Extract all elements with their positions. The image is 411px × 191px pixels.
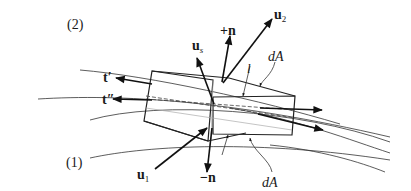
label-thickness: l <box>247 61 251 76</box>
region-label-2: (2) <box>67 17 84 33</box>
label-plus-n: +n <box>220 23 236 38</box>
label-u-1: u1 <box>137 167 149 184</box>
vector-u-s <box>197 58 214 104</box>
label-dA-top: dA <box>268 49 284 64</box>
vector-t-right-1 <box>260 108 322 110</box>
label-t-prime: t′ <box>103 70 112 85</box>
interface-surface-lines <box>38 70 390 172</box>
label-u-2: u2 <box>274 7 286 24</box>
region-label-1: (1) <box>66 155 83 171</box>
vector-minus-n <box>207 128 212 172</box>
label-t-double-prime: t″ <box>102 92 114 107</box>
interface-control-volume-diagram: (2) (1) us +n u2 t′ t″ u1 −n dA dA l <box>0 0 411 191</box>
label-dA-bottom: dA <box>262 175 278 190</box>
label-u-s: us <box>192 38 204 55</box>
vector-t-double-prime <box>113 99 152 100</box>
label-minus-n: −n <box>200 170 216 185</box>
